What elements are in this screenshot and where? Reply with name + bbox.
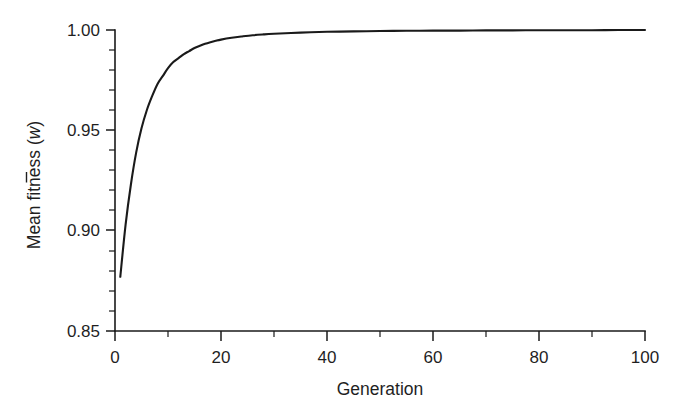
chart-figure: 1.00 0.95 0.90 0.85 0 20 40 60: [0, 0, 685, 410]
chart-background: [0, 0, 685, 410]
y-tick-label-0.90: 0.90: [67, 221, 100, 240]
y-tick-label-0.85: 0.85: [67, 322, 100, 341]
mean-fitness-line-chart: 1.00 0.95 0.90 0.85 0 20 40 60: [0, 0, 685, 410]
y-tick-label-1.00: 1.00: [67, 21, 100, 40]
x-tick-label-40: 40: [318, 348, 337, 367]
y-axis-title-suffix: ): [24, 121, 44, 127]
x-tick-label-0: 0: [110, 348, 119, 367]
y-tick-label-0.95: 0.95: [67, 121, 100, 140]
x-tick-label-20: 20: [212, 348, 231, 367]
x-tick-label-80: 80: [530, 348, 549, 367]
x-tick-label-100: 100: [631, 348, 659, 367]
svg-text:Mean fitness (w): Mean fitness (w): [24, 121, 44, 249]
x-axis-title: Generation: [337, 379, 424, 399]
y-axis-title-prefix: Mean fitness (: [24, 139, 44, 249]
y-axis-title: Mean fitness (w): [24, 121, 44, 249]
x-tick-label-60: 60: [424, 348, 443, 367]
